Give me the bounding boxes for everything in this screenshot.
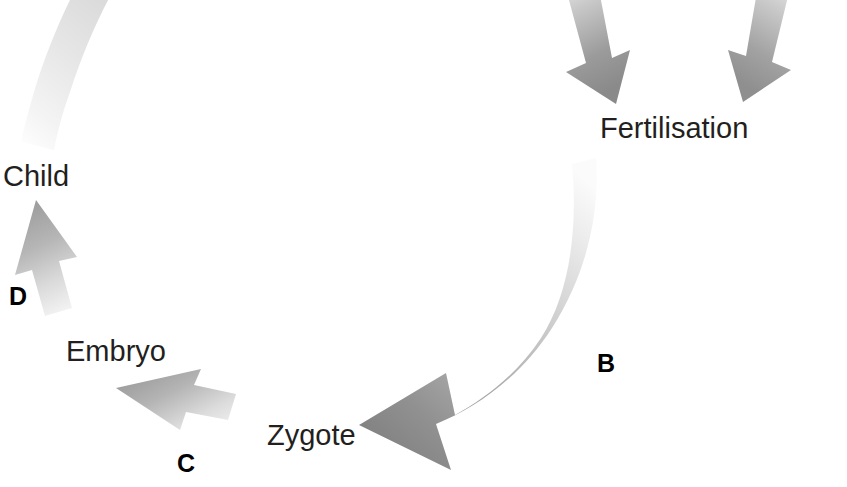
arrow-a-tail — [21, 0, 124, 150]
step-letter-b: B — [597, 351, 615, 376]
sperm-input-arrow — [563, 0, 630, 104]
step-letter-d: D — [9, 284, 27, 309]
egg-input-arrow — [728, 0, 792, 102]
stage-label-zygote: Zygote — [267, 421, 356, 450]
diagram-graphics — [0, 0, 847, 487]
stage-label-fertilisation: Fertilisation — [600, 114, 748, 143]
arrow-b — [359, 158, 597, 470]
arrow-c — [116, 369, 236, 430]
step-letter-c: C — [177, 451, 195, 476]
stage-label-embryo: Embryo — [66, 337, 166, 366]
life-cycle-diagram: Fertilisation Child Embryo Zygote B C D — [0, 0, 847, 487]
stage-label-child: Child — [3, 162, 69, 191]
